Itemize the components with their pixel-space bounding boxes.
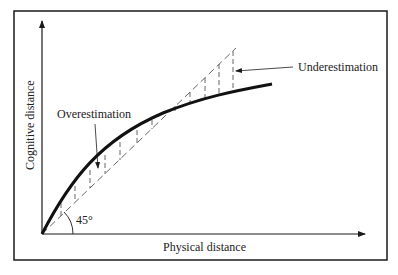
overestimation-hatching (61, 120, 152, 216)
y-axis-label: Cognitive distance (23, 80, 37, 170)
underestimation-label: Underestimation (298, 60, 378, 74)
cognitive-distance-diagram: 45° Physical distance Cognitive distance… (0, 0, 398, 275)
underestimation-hatching (175, 51, 233, 111)
angle-label: 45° (76, 213, 93, 227)
angle-arc (64, 212, 73, 234)
overestimation-label: Overestimation (57, 107, 131, 121)
diagram-frame (14, 11, 387, 260)
x-axis-label: Physical distance (163, 240, 246, 254)
reference-45-degree-line (42, 48, 236, 234)
overestimation-pointer (95, 124, 98, 168)
underestimation-pointer (236, 67, 293, 71)
